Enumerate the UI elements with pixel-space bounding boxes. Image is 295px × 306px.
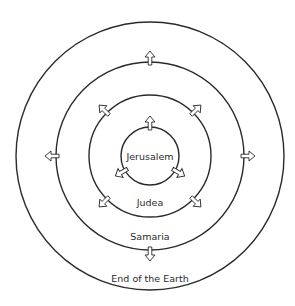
arrow-icon — [170, 165, 187, 181]
arrow-icon — [145, 51, 155, 65]
arrow-icon — [113, 165, 130, 181]
arrow-icon — [145, 247, 155, 261]
arrow-icon — [45, 151, 59, 161]
label-end-of-the-earth: End of the Earth — [111, 273, 188, 284]
label-samaria: Samaria — [130, 231, 169, 242]
label-judea: Judea — [136, 197, 164, 208]
arrow-icon — [241, 151, 255, 161]
concentric-diagram: Jerusalem Judea Samaria End of the Earth — [0, 0, 295, 306]
label-jerusalem: Jerusalem — [125, 151, 173, 162]
